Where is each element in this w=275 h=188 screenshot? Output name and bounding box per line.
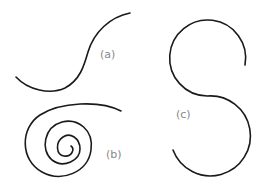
panel-c: (c) [170, 20, 251, 176]
label-a: (a) [100, 48, 115, 61]
spiral-b [25, 104, 121, 176]
s-shape-c [170, 20, 251, 176]
panel-a: (a) [16, 13, 130, 91]
diagram-canvas: (a) (b) (c) [0, 0, 275, 188]
label-c: (c) [176, 108, 191, 121]
panel-b: (b) [25, 104, 121, 176]
label-b: (b) [106, 148, 122, 161]
